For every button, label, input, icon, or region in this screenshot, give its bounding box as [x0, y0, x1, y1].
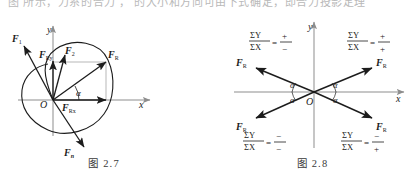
q1-numerator: ΣY: [348, 30, 359, 40]
x-axis-label: x: [138, 99, 144, 110]
figure-2-8-drawing: α α α α FR FR FR FR y x O ΣY ΣX = + −: [208, 8, 417, 158]
y-axis-label: y: [307, 21, 313, 32]
label-F1: F1: [11, 33, 22, 45]
q1-sign-numerator: +: [380, 31, 385, 41]
q3-sign-numerator: −: [276, 131, 281, 141]
x-axis-label: x: [395, 93, 401, 104]
angle-label-alpha-q2: α: [290, 80, 295, 90]
quadrant-2-formula: ΣY ΣX = + −: [249, 30, 292, 54]
rigid-body-outline: [22, 42, 113, 133]
vector-FR-quadrant-1: [314, 68, 372, 92]
vector-FR-quadrant-2: [256, 68, 314, 92]
q4-numerator: ΣY: [342, 130, 353, 140]
angle-label-alpha-q3: α: [290, 95, 295, 105]
label-F2: F2: [64, 45, 75, 57]
figure-page: 图 所示，力系的合力 ， 的大小和方向可由下式确定，即合力投影定理: [0, 0, 417, 180]
vector-FR-quadrant-4: [314, 92, 372, 118]
q2-denominator: ΣX: [250, 42, 261, 52]
label-FR-quadrant-2: FR: [235, 57, 247, 69]
label-FRx: FRx: [61, 102, 76, 114]
label-FR-quadrant-1: FR: [375, 57, 387, 69]
q2-sign-denominator: −: [282, 44, 287, 54]
origin-label: O: [306, 96, 313, 107]
q1-sign-denominator: +: [380, 44, 385, 54]
q4-sign-denominator: +: [374, 144, 379, 154]
quadrant-4-formula: ΣY ΣX = − +: [341, 130, 384, 154]
q2-numerator: ΣY: [250, 30, 261, 40]
figure-2-8-caption: 图 2.8: [208, 155, 417, 170]
q1-denominator: ΣX: [348, 42, 359, 52]
q4-equals: =: [364, 138, 369, 148]
q2-equals: =: [272, 38, 277, 48]
angle-label-alpha-q4: α: [333, 95, 338, 105]
figure-2-7-panel: F1 FRy F2 FR FRx Fn O y x α 图 2.7: [0, 8, 208, 180]
angle-label-alpha: α: [76, 88, 81, 98]
cut-off-header-text: 图 所示，力系的合力 ， 的大小和方向可由下式确定，即合力投影定理: [8, 0, 409, 8]
q3-numerator: ΣY: [244, 130, 255, 140]
angle-label-alpha-q1: α: [333, 80, 338, 90]
origin-label: O: [40, 99, 47, 110]
figure-2-8-panel: α α α α FR FR FR FR y x O ΣY ΣX = + −: [208, 8, 417, 180]
label-FR: FR: [107, 49, 119, 61]
q3-equals: =: [266, 138, 271, 148]
force-vectors-group: [24, 46, 106, 147]
label-FRy: FRy: [38, 49, 52, 61]
quadrant-1-formula: ΣY ΣX = + +: [347, 30, 390, 54]
y-axis-label: y: [46, 24, 52, 35]
q1-equals: =: [370, 38, 375, 48]
q2-sign-numerator: +: [282, 31, 287, 41]
quadrant-3-formula: ΣY ΣX = − −: [243, 130, 286, 154]
q3-sign-denominator: −: [276, 144, 281, 154]
figure-2-7-caption: 图 2.7: [0, 155, 208, 170]
q3-denominator: ΣX: [244, 142, 255, 152]
q4-sign-numerator: −: [374, 131, 379, 141]
q4-denominator: ΣX: [342, 142, 353, 152]
figure-2-7-drawing: F1 FRy F2 FR FRx Fn O y x α: [0, 8, 208, 158]
